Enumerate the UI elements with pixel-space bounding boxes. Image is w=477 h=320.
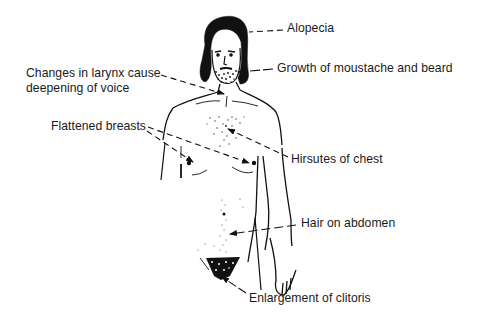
label-larynx-line1: Changes in larynx cause	[26, 66, 161, 81]
label-flattened-breasts: Flattened breasts	[51, 119, 146, 134]
chest-hair-stipple	[206, 116, 244, 146]
anatomy-figure	[0, 0, 477, 320]
clitoris-arrow	[222, 277, 246, 293]
breasts-arrow-left	[147, 131, 193, 162]
label-abdomen-hair: Hair on abdomen	[301, 216, 395, 231]
label-chest-hirsutism: Hirsutes of chest	[291, 152, 383, 167]
abdomen-hair-stipple	[197, 198, 243, 252]
larynx-arrow	[161, 75, 224, 94]
label-beard-growth: Growth of moustache and beard	[277, 61, 453, 76]
label-larynx-line2: deepening of voice	[26, 81, 129, 96]
label-alopecia: Alopecia	[287, 21, 334, 36]
alopecia-leader	[249, 30, 283, 32]
pubic-hair-illustration	[200, 257, 240, 280]
label-clitoris-enlargement: Enlargement of clitoris	[249, 291, 371, 306]
chest-arrow	[228, 129, 288, 157]
abdomen-arrow	[230, 225, 296, 234]
